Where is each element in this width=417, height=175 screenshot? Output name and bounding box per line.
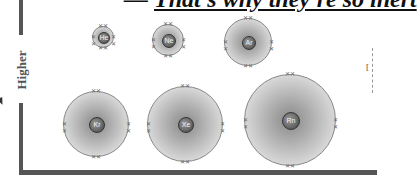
electron-pair: ✕✕ — [90, 33, 96, 47]
electron-pair: ✕✕ — [91, 88, 101, 94]
dashed-divider — [372, 48, 373, 93]
electron-pair: ✕✕ — [125, 120, 131, 134]
axis-bar-top — [19, 0, 23, 35]
bracket-mark: [ — [366, 62, 369, 72]
electron-pair: ✕✕ — [243, 63, 253, 69]
electron-pair: ✕✕ — [219, 120, 225, 134]
electron-pair: ✕✕ — [332, 116, 338, 130]
electron-pair: ✕✕ — [150, 36, 156, 50]
nucleus: Ar — [242, 36, 256, 50]
electron-pair: ✕✕ — [163, 53, 173, 59]
nucleus: He — [98, 32, 110, 44]
electron-pair: ✕✕ — [145, 120, 151, 134]
nucleus: Kr — [89, 117, 105, 133]
title-dash: — — [124, 0, 154, 12]
atom-xe: Xe✕✕✕✕✕✕✕✕ — [147, 86, 223, 162]
slide-title: — That's why they're so inert — [124, 0, 417, 13]
electron-pair: ✕✕ — [180, 83, 190, 89]
electron-pair: ✕✕ — [285, 163, 295, 169]
electron-pair: ✕✕ — [285, 71, 295, 77]
nucleus: Rn — [282, 112, 300, 130]
arrow-tip-icon — [0, 97, 5, 106]
electron-pair: ✕✕ — [91, 154, 101, 160]
electron-pair: ✕✕ — [61, 120, 67, 134]
title-text: That's why they're so inert — [154, 0, 417, 12]
axis-label-higher: Higher — [14, 50, 30, 90]
atom-rn: Rn✕✕✕✕✕✕✕✕ — [244, 74, 336, 166]
electron-pair: ✕✕ — [242, 116, 248, 130]
electron-pair: ✕✕ — [222, 38, 228, 52]
electron-pair: ✕✕ — [243, 15, 253, 21]
electron-pair: ✕✕ — [180, 159, 190, 165]
electron-pair: ✕✕ — [268, 38, 274, 52]
electron-pair: ✕✕ — [98, 45, 108, 51]
electron-pair: ✕✕ — [163, 21, 173, 27]
electron-pair: ✕✕ — [110, 33, 116, 47]
baseline-bar — [19, 170, 377, 175]
axis-bar-bottom — [19, 103, 23, 175]
atom-ar: Ar✕✕✕✕✕✕✕✕ — [224, 18, 272, 66]
electron-pair: ✕✕ — [98, 23, 108, 29]
atom-he: He✕✕✕✕✕✕✕✕ — [92, 26, 114, 48]
electron-pair: ✕✕ — [180, 36, 186, 50]
nucleus: Ne — [162, 34, 176, 48]
atom-ne: Ne✕✕✕✕✕✕✕✕ — [152, 24, 184, 56]
atom-kr: Kr✕✕✕✕✕✕✕✕ — [63, 91, 129, 157]
nucleus: Xe — [178, 117, 194, 133]
